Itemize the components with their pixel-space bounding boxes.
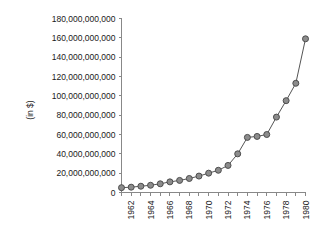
x-tick-label: 1970 — [204, 200, 214, 219]
x-tick-label: 1966 — [165, 200, 175, 219]
data-point-marker — [273, 114, 279, 120]
data-point-marker — [138, 183, 144, 189]
data-point-marker — [283, 98, 289, 104]
y-tick-label: 80,000,000,000 — [56, 110, 115, 120]
y-axis-title: (in $) — [25, 100, 35, 120]
y-tick-label: 40,000,000,000 — [56, 149, 115, 159]
data-point-marker — [225, 162, 231, 168]
x-tick-label: 1978 — [281, 200, 291, 219]
y-tick-label: 20,000,000,000 — [56, 168, 115, 178]
y-tick-label: 180,000,000,000 — [52, 14, 116, 24]
data-point-marker — [303, 36, 309, 42]
x-tick-label: 1980 — [301, 200, 311, 219]
data-point-marker — [196, 173, 202, 179]
x-tick-label: 1972 — [223, 200, 233, 219]
data-point-marker — [119, 185, 125, 191]
data-point-marker — [244, 134, 250, 140]
data-point-marker — [177, 177, 183, 183]
data-point-marker — [186, 175, 192, 181]
x-tick-label: 1962 — [126, 200, 136, 219]
chart-container: 180,000,000,000160,000,000,000140,000,00… — [0, 0, 318, 229]
y-tick-label: 100,000,000,000 — [52, 91, 116, 101]
data-point-marker — [148, 182, 154, 188]
y-tick-label: 120,000,000,000 — [52, 72, 116, 82]
y-tick-label: 60,000,000,000 — [56, 130, 115, 140]
data-point-marker — [128, 184, 134, 190]
x-tick-label: 1974 — [242, 200, 252, 219]
data-point-marker — [264, 132, 270, 138]
data-point-marker — [254, 133, 260, 139]
data-point-marker — [293, 80, 299, 86]
data-point-marker — [167, 179, 173, 185]
x-tick-label: 1976 — [262, 200, 272, 219]
data-point-marker — [215, 167, 221, 173]
x-tick-label: 1968 — [184, 200, 194, 219]
data-point-marker — [235, 151, 241, 157]
y-tick-label: 140,000,000,000 — [52, 52, 116, 62]
data-point-marker — [157, 181, 163, 187]
y-tick-label: 160,000,000,000 — [52, 33, 116, 43]
data-point-marker — [206, 170, 212, 176]
series-line — [122, 39, 306, 188]
x-tick-label: 1964 — [146, 200, 156, 219]
line-chart: 180,000,000,000160,000,000,000140,000,00… — [0, 0, 318, 229]
y-tick-label: 0 — [111, 188, 116, 198]
